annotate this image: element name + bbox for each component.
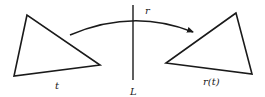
label-r-of-t: r(t) [203, 76, 220, 87]
transformation-arrow-r [70, 21, 193, 35]
label-L: L [129, 86, 137, 97]
label-t: t [55, 80, 60, 91]
triangle-r-t [166, 13, 252, 74]
reflection-diagram: t L r r(t) [0, 0, 265, 97]
triangle-t [14, 15, 100, 76]
label-r: r [145, 5, 151, 16]
